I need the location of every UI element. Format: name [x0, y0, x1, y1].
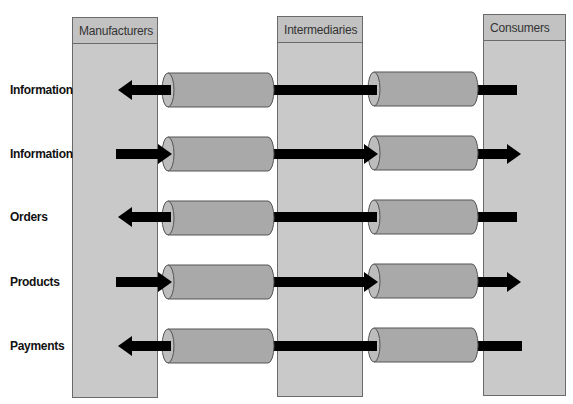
distribution-channel-diagram: Manufacturers Intermediaries Consumers I…: [0, 0, 573, 404]
pipe-cylinder-icon: [367, 200, 478, 234]
flow-row-orders-left: [118, 200, 517, 235]
pipe-cylinder-icon: [161, 73, 274, 107]
pipe-cylinder-icon: [368, 136, 478, 170]
pipe-cylinder-icon: [161, 201, 274, 235]
arrow-left-icon: [118, 207, 132, 227]
arrow-left-icon: [118, 80, 132, 100]
pipe-cylinder-icon: [161, 329, 274, 363]
pipe-cylinder-icon: [368, 264, 478, 298]
flow-row-information-right: [116, 136, 521, 171]
arrow-left-icon: [118, 336, 132, 356]
pipe-cylinder-icon: [162, 137, 274, 171]
pipe-cylinder-icon: [162, 265, 274, 299]
arrow-right-icon: [507, 144, 521, 164]
flow-row-payments-left: [118, 328, 522, 363]
flow-row-products-right: [116, 264, 521, 299]
pipe-cylinder-icon: [367, 72, 478, 106]
flow-layer: [0, 0, 573, 404]
pipe-cylinder-icon: [367, 328, 478, 362]
arrow-right-icon: [507, 272, 521, 292]
flow-row-information-left: [118, 72, 517, 107]
